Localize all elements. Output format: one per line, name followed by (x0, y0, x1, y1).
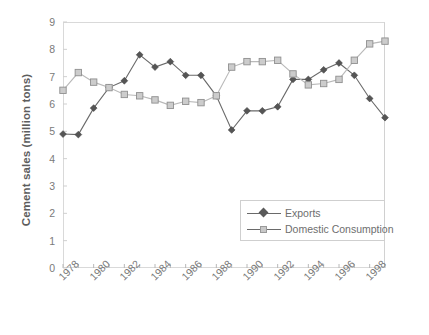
x-tick-1980: 1980 (87, 257, 112, 282)
legend-item-exports: Exports (247, 205, 384, 221)
legend-item-domestic-consumption: Domestic Consumption (247, 221, 384, 237)
x-tick-1982: 1982 (117, 257, 142, 282)
x-tick-1992: 1992 (271, 257, 296, 282)
x-tick-1998: 1998 (363, 257, 388, 282)
x-tick-1978: 1978 (56, 257, 81, 282)
square-marker-icon (247, 223, 281, 235)
x-tick-1996: 1996 (332, 257, 357, 282)
legend-label-domestic-consumption: Domestic Consumption (285, 223, 394, 235)
x-tick-1988: 1988 (209, 257, 234, 282)
x-tick-1994: 1994 (301, 257, 326, 282)
cement-sales-line-chart: Cement sales (million tons) 9876543210 1… (0, 0, 429, 335)
diamond-marker-icon (247, 207, 281, 219)
chart-legend: Exports Domestic Consumption (240, 200, 385, 241)
x-axis-tick-labels: 1978198019821984198619881990199219941996… (0, 0, 429, 335)
x-tick-1984: 1984 (148, 257, 173, 282)
x-tick-1986: 1986 (179, 257, 204, 282)
x-tick-1990: 1990 (240, 257, 265, 282)
legend-label-exports: Exports (285, 207, 321, 219)
